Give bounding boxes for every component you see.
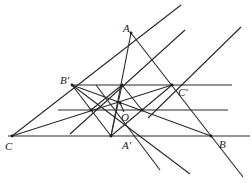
label-A-prime: A′ [121, 139, 132, 151]
point-A [130, 32, 133, 35]
label-C: C [5, 140, 13, 152]
point-M-top [121, 84, 124, 87]
point-C [11, 135, 14, 138]
point-P-right [141, 109, 144, 112]
label-A: A [122, 22, 130, 34]
label-B-prime: B′ [60, 74, 70, 86]
label-O: O [121, 111, 129, 123]
point-A-prime [110, 135, 113, 138]
point-P-left [90, 109, 93, 112]
geometry-diagram: A B C A′ B′ C′ O [0, 0, 252, 183]
line-Mtop-Pright [122, 85, 142, 110]
point-O [119, 102, 122, 105]
label-B: B [219, 138, 226, 150]
point-B [210, 135, 213, 138]
label-C-prime: C′ [178, 86, 188, 98]
point-B-prime [71, 84, 74, 87]
point-C-prime [171, 84, 174, 87]
